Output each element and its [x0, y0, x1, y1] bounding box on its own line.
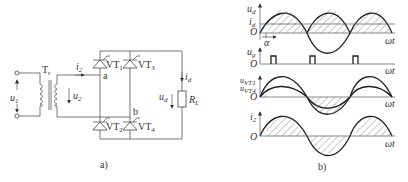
node-a-label: a	[103, 70, 108, 81]
plot-ug: ug O ωt	[247, 46, 395, 76]
plot4-origin: O	[250, 131, 257, 142]
vt4-label: VT4	[138, 121, 155, 134]
gate-pulse-2	[310, 56, 315, 64]
waveform-diagram: ud id O α ωt ug O ωt uVT1 uVT4	[240, 3, 395, 173]
rl-label: RL	[188, 94, 199, 107]
input-terminal-bottom	[15, 114, 19, 118]
caption-b: b)	[318, 161, 326, 173]
plot3-x-label: ωt	[385, 98, 395, 109]
transformer-secondary-coil	[55, 84, 58, 106]
input-terminal-top	[15, 71, 19, 75]
vt2-label: VT2	[106, 121, 123, 134]
plot3-origin: O	[250, 91, 257, 102]
circuit-diagram: u1 Tr i2 u2 a b VT1	[10, 51, 199, 171]
vt1-label: VT1	[106, 59, 123, 72]
diagram-canvas: u1 Tr i2 u2 a b VT1	[0, 0, 408, 182]
plot-i2: i2 O ωt	[250, 111, 395, 156]
u2-label: u2	[73, 90, 82, 103]
gate-pulse-1	[271, 56, 276, 64]
i2-axis-label: i2	[250, 111, 257, 124]
plot2-x-label: ωt	[385, 65, 395, 76]
plot2-origin: O	[250, 58, 257, 69]
alpha-label: α	[264, 37, 270, 48]
load-resistor	[178, 91, 186, 107]
i2-label: i2	[76, 61, 83, 74]
ud-axis-label: ud	[247, 3, 256, 16]
node-b-label: b	[133, 106, 138, 117]
u2-negative-half	[307, 33, 350, 53]
u1-label: u1	[10, 92, 19, 105]
plot1-x-label: ωt	[385, 35, 395, 46]
transformer-label: Tr	[42, 64, 51, 77]
vt3-label: VT3	[138, 59, 155, 72]
plot-ud: ud id O α ωt	[247, 3, 395, 53]
ud-label: ud	[159, 91, 168, 104]
caption-a: a)	[100, 159, 108, 171]
gate-pulse-3	[353, 56, 358, 64]
plot1-origin: O	[250, 26, 257, 37]
id-label: id	[185, 71, 192, 84]
plot4-x-label: ωt	[385, 138, 395, 149]
transformer-primary-coil	[40, 84, 43, 106]
plot-uvt: uVT1 uVT4 O ωt	[240, 76, 395, 114]
